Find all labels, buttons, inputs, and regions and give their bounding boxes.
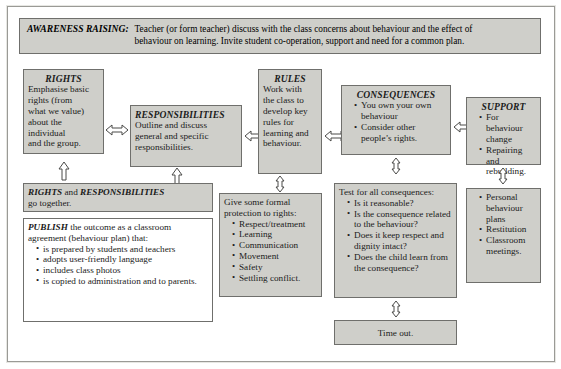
box-rules-line-3: develop key <box>263 106 317 117</box>
box-responsibilities-line-2: general and specific <box>135 131 237 142</box>
list-item: Consider other people’s rights. <box>355 122 446 144</box>
list-item: You own your own behaviour <box>355 100 446 122</box>
formal-protection-line-2: protection to rights: <box>224 208 317 219</box>
conjunction: and <box>62 187 80 197</box>
box-rights-line-6: and the group. <box>28 138 99 149</box>
arrow-support-strategies <box>496 167 510 185</box>
box-rights-title: RIGHTS <box>28 73 99 84</box>
box-rules-line-4: rules for <box>263 117 317 128</box>
diagram-frame: AWARENESS RAISING: Teacher (or form teac… <box>7 6 555 362</box>
box-rules-line-6: behaviour. <box>263 138 317 149</box>
list-item: Is the consequence related to the behavi… <box>348 209 452 231</box>
box-formal-protection-list: Respect/treatment Learning Communication… <box>224 219 317 284</box>
box-support: SUPPORT For behaviour change Repairing a… <box>466 97 541 165</box>
box-rights-and-responsibilities-line-1: RIGHTS and RESPONSIBILITIES <box>28 187 208 198</box>
box-time-out: Time out. <box>334 320 457 345</box>
box-responsibilities-line-1: Outline and discuss <box>135 120 237 131</box>
awareness-raising-line-1: Teacher (or form teacher) discuss with t… <box>135 23 473 35</box>
list-item: Personal behaviour plans <box>480 192 536 224</box>
box-test-consequences-intro: Test for all consequences: <box>339 187 452 198</box>
box-rules: RULES Work with the class to develop key… <box>258 69 322 174</box>
box-publish-list: is prepared by students and teachers ado… <box>28 244 208 287</box>
box-rights-line-5: individual <box>28 128 99 139</box>
rights-emphasis: RIGHTS <box>28 187 62 197</box>
arrow-up-rights <box>57 161 71 181</box>
arrow-rights-responsibilities <box>105 123 129 137</box>
box-test-consequences-list: Is it reasonable? Is the consequence rel… <box>339 198 452 274</box>
list-item: includes class photos <box>37 265 208 276</box>
box-rules-line-2: the class to <box>263 95 317 106</box>
list-item: Movement <box>233 251 317 262</box>
box-responsibilities-title: RESPONSIBILITIES <box>135 109 237 120</box>
list-item: Is it reasonable? <box>348 198 452 209</box>
box-rights-and-responsibilities-line-2: go together. <box>28 198 208 209</box>
awareness-raising-banner: AWARENESS RAISING: Teacher (or form teac… <box>19 18 541 54</box>
list-item: is copied to administration and to paren… <box>37 276 208 287</box>
list-item: Learning <box>233 229 317 240</box>
box-rights-and-responsibilities: RIGHTS and RESPONSIBILITIES go together. <box>23 183 213 212</box>
list-item: Does it keep respect and dignity intact? <box>348 230 452 252</box>
box-rights-line-4: about the <box>28 117 99 128</box>
box-support-strategies-list: Personal behaviour plans Restitution Cla… <box>471 192 536 257</box>
box-publish-intro: PUBLISH the outcome as a classroom agree… <box>28 222 208 244</box>
box-consequences-list: You own your own behaviour Consider othe… <box>346 100 446 143</box>
list-item: Safety <box>233 262 317 273</box>
list-item: Respect/treatment <box>233 219 317 230</box>
box-test-consequences: Test for all consequences: Is it reasona… <box>334 183 457 298</box>
list-item: Restitution <box>480 224 536 235</box>
box-rights: RIGHTS Emphasise basic rights (from what… <box>23 69 104 154</box>
arrow-rules-formal-protection <box>273 175 287 193</box>
diagram-page: AWARENESS RAISING: Teacher (or form teac… <box>0 0 561 369</box>
box-responsibilities-lines: Outline and discuss general and specific… <box>135 120 237 152</box>
box-responsibilities: RESPONSIBILITIES Outline and discuss gen… <box>130 105 242 167</box>
list-item: Settling conflict. <box>233 273 317 284</box>
box-rules-line-5: learning and <box>263 128 317 139</box>
list-item: Does the child learn from the consequenc… <box>348 252 452 274</box>
box-rights-lines: Emphasise basic rights (from what we val… <box>28 84 99 149</box>
box-support-title: SUPPORT <box>471 101 536 112</box>
awareness-raising-text: Teacher (or form teacher) discuss with t… <box>135 23 473 49</box>
arrow-consequences-test <box>389 157 403 175</box>
formal-protection-line-1: Give some formal <box>224 197 317 208</box>
box-consequences-title: CONSEQUENCES <box>346 89 446 100</box>
list-item: Classroom meetings. <box>480 235 536 257</box>
box-time-out-label: Time out. <box>378 328 413 338</box>
box-consequences: CONSEQUENCES You own your own behaviour … <box>341 85 451 155</box>
list-item: is prepared by students and teachers <box>37 244 208 255</box>
list-item: adopts user-friendly language <box>37 254 208 265</box>
box-rules-lines: Work with the class to develop key rules… <box>263 84 317 149</box>
box-publish: PUBLISH the outcome as a classroom agree… <box>23 218 213 322</box>
box-responsibilities-line-3: responsibilities. <box>135 142 237 153</box>
box-rules-line-1: Work with <box>263 84 317 95</box>
list-item: For behaviour change <box>480 112 536 144</box>
box-formal-protection: Give some formal protection to rights: R… <box>219 193 322 297</box>
arrow-test-timeout <box>389 300 403 318</box>
box-rights-line-1: Emphasise basic <box>28 84 99 95</box>
responsibilities-emphasis: RESPONSIBILITIES <box>80 187 164 197</box>
awareness-raising-label: AWARENESS RAISING: <box>27 23 129 49</box>
list-item: Communication <box>233 240 317 251</box>
box-support-strategies: Personal behaviour plans Restitution Cla… <box>466 188 541 283</box>
box-rights-line-2: rights (from <box>28 95 99 106</box>
publish-emphasis: PUBLISH <box>28 222 68 232</box>
box-formal-protection-intro: Give some formal protection to rights: <box>224 197 317 219</box>
box-rights-line-3: what we value) <box>28 106 99 117</box>
box-rules-title: RULES <box>263 73 317 84</box>
awareness-raising-line-2: behaviour on learning. Invite student co… <box>135 35 473 47</box>
